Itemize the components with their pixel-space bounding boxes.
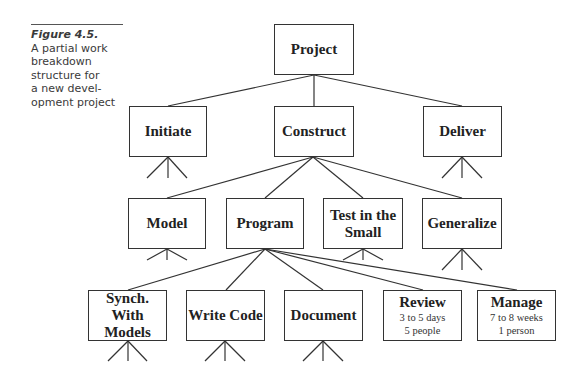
node-duration: 3 to 5 days [400, 311, 446, 324]
node-synch-with-models: Synch. With Models [88, 290, 167, 341]
node-manage: Manage 7 to 8 weeks 1 person [477, 290, 556, 341]
node-label: Deliver [439, 123, 486, 140]
node-model: Model [128, 198, 206, 249]
node-label: Manage [491, 294, 543, 311]
node-label: Document [291, 307, 357, 324]
node-document: Document [284, 290, 363, 341]
node-staff: 5 people [405, 324, 441, 337]
node-deliver: Deliver [423, 106, 502, 157]
node-label: Review [399, 294, 446, 311]
synch-fan [108, 341, 147, 361]
node-label-line-1: Test in the [330, 207, 396, 224]
node-label: Project [291, 41, 337, 58]
document-fan [303, 341, 343, 361]
node-label-line-1: Synch. With [89, 290, 166, 324]
deliver-fan [442, 157, 482, 178]
generalize-fan [442, 249, 482, 270]
node-label-line-2: Small [345, 224, 382, 241]
node-duration: 7 to 8 weeks [490, 311, 543, 324]
node-initiate: Initiate [129, 106, 207, 157]
node-generalize: Generalize [422, 198, 502, 249]
node-label-line-2: Models [104, 324, 151, 341]
node-label: Model [147, 215, 188, 232]
node-write-code: Write Code [186, 290, 265, 341]
node-label: Construct [282, 123, 346, 140]
model-fan [147, 249, 187, 260]
writecode-fan [205, 341, 245, 361]
node-staff: 1 person [499, 324, 535, 337]
node-label: Initiate [145, 123, 192, 140]
test-fan [343, 249, 383, 260]
node-label: Generalize [427, 215, 496, 232]
node-label: Program [236, 215, 293, 232]
node-test-in-the-small: Test in the Small [323, 198, 403, 249]
node-construct: Construct [274, 106, 354, 157]
node-program: Program [226, 198, 304, 249]
node-review: Review 3 to 5 days 5 people [383, 290, 462, 341]
initiate-fan [147, 157, 187, 178]
node-project: Project [274, 24, 354, 75]
node-label: Write Code [188, 307, 262, 324]
